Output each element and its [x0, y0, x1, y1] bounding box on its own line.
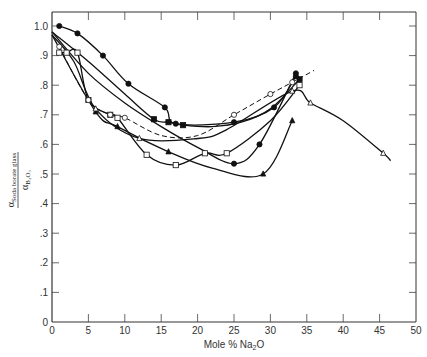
x-tick-label: 40 — [338, 325, 350, 336]
x-tick-label: 10 — [119, 325, 131, 336]
data-point-circle — [231, 161, 236, 166]
data-point-square — [151, 117, 156, 122]
y-axis-label-numerator: αSoda borate glass — [5, 153, 18, 208]
data-point-circle — [173, 121, 178, 126]
y-axis-label-denominator: αB₂O₃ — [19, 170, 32, 190]
y-tick-label: .4 — [40, 198, 49, 209]
data-point-circle — [162, 105, 167, 110]
data-point-circle — [231, 112, 236, 117]
data-point-square — [224, 151, 229, 156]
y-tick-label: .6 — [40, 139, 49, 150]
data-point-circle — [293, 71, 298, 76]
x-tick-label: 35 — [301, 325, 313, 336]
x-tick-label: 5 — [86, 325, 92, 336]
y-tick-label: .1 — [40, 287, 49, 298]
data-point-circle — [231, 120, 236, 125]
y-tick-label: .5 — [40, 169, 49, 180]
axes: 051015202530354045500.1.2.3.4.5.6.7.8.91… — [34, 12, 422, 336]
data-point-circle — [122, 115, 127, 120]
data-point-circle — [57, 23, 62, 28]
x-tick-label: 0 — [49, 325, 55, 336]
data-point-square — [64, 50, 69, 55]
data-point-circle — [108, 112, 113, 117]
data-point-circle — [268, 91, 273, 96]
x-tick-label: 30 — [265, 325, 277, 336]
data-point-square — [202, 151, 207, 156]
x-axis-label: Mole % Na2O — [204, 339, 265, 351]
curve-filled-triangles — [52, 35, 292, 177]
data-point-triangle — [290, 118, 295, 123]
data-point-circle — [100, 53, 105, 58]
data-point-circle — [126, 81, 131, 86]
data-point-square — [297, 83, 302, 88]
data-point-square — [173, 163, 178, 168]
y-tick-label: 1.0 — [34, 21, 48, 32]
chart-canvas: 051015202530354045500.1.2.3.4.5.6.7.8.91… — [0, 0, 427, 357]
x-tick-label: 20 — [192, 325, 204, 336]
y-tick-label: .3 — [40, 228, 49, 239]
x-tick-label: 45 — [374, 325, 386, 336]
data-curves — [52, 26, 391, 177]
data-point-circle — [271, 105, 276, 110]
data-point-triangle — [308, 100, 313, 105]
curve-filled-squares — [52, 32, 300, 127]
x-tick-label: 15 — [156, 325, 168, 336]
data-point-square — [166, 120, 171, 125]
data-point-circle — [290, 80, 295, 85]
data-point-circle — [86, 97, 91, 102]
data-point-circle — [257, 142, 262, 147]
x-tick-label: 25 — [228, 325, 240, 336]
data-point-square — [57, 50, 62, 55]
y-tick-label: .9 — [40, 50, 49, 61]
y-tick-label: .2 — [40, 257, 49, 268]
y-tick-label: .8 — [40, 80, 49, 91]
data-point-square — [115, 115, 120, 120]
data-point-square — [144, 152, 149, 157]
data-markers — [57, 23, 386, 176]
data-point-square — [75, 50, 80, 55]
y-tick-label: 0 — [42, 317, 48, 328]
y-axis-label: αSoda borate glass αB₂O₃ — [5, 152, 32, 208]
data-point-circle — [75, 31, 80, 36]
y-tick-label: .7 — [40, 109, 49, 120]
data-point-square — [180, 123, 185, 128]
data-point-square — [297, 77, 302, 82]
x-tick-label: 50 — [410, 325, 422, 336]
data-point-circle — [57, 44, 62, 49]
